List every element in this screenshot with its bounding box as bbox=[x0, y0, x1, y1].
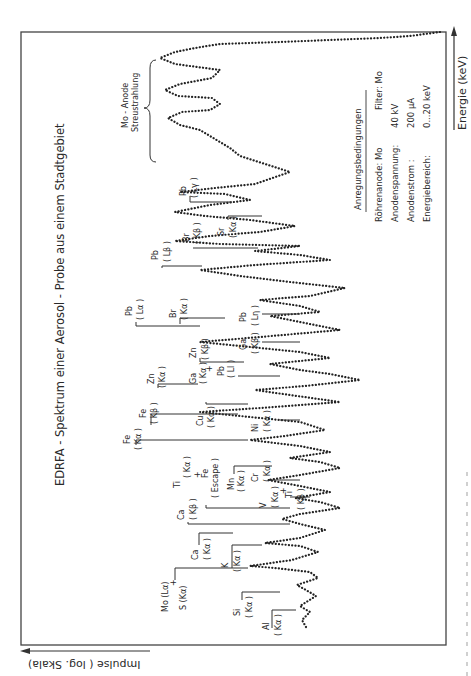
cond-filter-value: Filter: Mo bbox=[374, 71, 384, 110]
cond-current-label: Anodenstrom : bbox=[406, 159, 416, 222]
svg-text:( Kα ): ( Kα ) bbox=[263, 410, 272, 432]
peak-label-al: Al ( Kα ) bbox=[262, 610, 296, 636]
svg-text:( Kα ): ( Kα ) bbox=[233, 550, 242, 572]
svg-text:K: K bbox=[221, 562, 230, 568]
svg-text:Pb: Pb bbox=[151, 250, 160, 260]
svg-text:Pb: Pb bbox=[239, 312, 248, 322]
svg-text:( Kα ): ( Kα ) bbox=[158, 366, 167, 388]
svg-text:+: + bbox=[169, 579, 178, 586]
energy-axis: Energie (keV) bbox=[451, 26, 469, 130]
svg-text:Ca: Ca bbox=[177, 509, 186, 520]
svg-text:Ca: Ca bbox=[191, 549, 200, 560]
svg-text:( Kα ): ( Kα ) bbox=[180, 298, 189, 320]
peak-label-br-ka: Br ( Kα ) bbox=[169, 298, 225, 324]
svg-text:Sr: Sr bbox=[217, 227, 226, 236]
svg-text:( Kβ ): ( Kβ ) bbox=[251, 332, 260, 354]
svg-text:( Kα ): ( Kα ) bbox=[237, 470, 246, 492]
svg-text:( Kα ): ( Kα ) bbox=[229, 216, 238, 238]
svg-text:V: V bbox=[259, 502, 268, 508]
svg-text:( Kα ): ( Kα ) bbox=[274, 614, 283, 636]
svg-text:( Kβ ): ( Kβ ) bbox=[201, 338, 210, 360]
cond-anode-label: Röhrenanode: Mo bbox=[374, 147, 384, 222]
svg-text:Ni: Ni bbox=[251, 424, 260, 432]
svg-text:Mn: Mn bbox=[227, 478, 236, 490]
svg-text:( Kα ): ( Kα ) bbox=[207, 406, 216, 428]
peak-label-si: Si ( Kα ) bbox=[233, 592, 280, 618]
intensity-axis: Impulse ( log. Skala) bbox=[20, 648, 150, 671]
svg-text:( Kβ ): ( Kβ ) bbox=[297, 488, 306, 510]
svg-text:Streustrahlung: Streustrahlung bbox=[131, 73, 140, 132]
svg-text:Pb: Pb bbox=[179, 186, 188, 196]
cond-range-value: 0...20 keV bbox=[422, 85, 432, 128]
svg-text:Br: Br bbox=[182, 233, 191, 242]
svg-text:( Ll ): ( Ll ) bbox=[227, 360, 236, 378]
svg-text:( Kβ ): ( Kβ ) bbox=[193, 222, 202, 244]
spectrum-figure: Impulse ( log. Skala) Energie (keV) EDRF… bbox=[0, 0, 471, 676]
arrow-left-icon bbox=[20, 648, 30, 654]
xaxis-label: Energie (keV) bbox=[456, 56, 469, 130]
svg-text:( Lβ ): ( Lβ ) bbox=[163, 241, 172, 262]
svg-text:Zn: Zn bbox=[189, 347, 198, 358]
svg-text:Br: Br bbox=[169, 309, 178, 318]
chart-title: EDRFA - Spektrum einer Aerosol - Probe a… bbox=[53, 123, 67, 486]
svg-text:Fe: Fe bbox=[139, 409, 148, 418]
svg-text:Fe: Fe bbox=[201, 469, 210, 478]
peak-label-k: K ( Kα ) bbox=[221, 545, 262, 572]
svg-text:Al: Al bbox=[262, 622, 271, 630]
conditions-block: Anregungsbedingungen Röhrenanode: Mo Fil… bbox=[353, 71, 432, 222]
svg-text:+: + bbox=[205, 365, 214, 372]
svg-text:Zn: Zn bbox=[147, 373, 156, 384]
svg-text:( Lα ): ( Lα ) bbox=[136, 299, 145, 320]
peak-label-v-ti: V ( Kα ) + Ti ( Kβ ) bbox=[259, 486, 310, 510]
svg-text:( Kα ): ( Kα ) bbox=[263, 460, 272, 482]
cond-current-value: 200 μA bbox=[406, 98, 416, 128]
scatter-annotation: Mo - Anode Streustrahlung bbox=[121, 60, 156, 162]
svg-text:( Escape ): ( Escape ) bbox=[211, 458, 220, 498]
peak-label-mo-s: Mo (Lα) + S (Kα) bbox=[161, 568, 248, 612]
svg-text:Cu: Cu bbox=[196, 415, 205, 426]
cond-voltage-label: Anodenspannung: bbox=[390, 145, 400, 222]
svg-text:Ti: Ti bbox=[173, 481, 182, 489]
svg-text:( Kα ): ( Kα ) bbox=[203, 538, 212, 560]
cond-range-label: Energiebereich: bbox=[422, 155, 432, 222]
svg-text:Pb: Pb bbox=[125, 306, 134, 316]
svg-text:( Kα ): ( Kα ) bbox=[245, 596, 254, 618]
peak-label-pb-ln: Pb ( Lη ) bbox=[239, 305, 300, 326]
cond-voltage-value: 40 kV bbox=[390, 104, 400, 128]
svg-text:Mo - Anode: Mo - Anode bbox=[121, 83, 130, 128]
svg-text:Ti: Ti bbox=[285, 491, 294, 499]
svg-text:( Kβ ): ( Kβ ) bbox=[150, 402, 159, 424]
peak-label-cr: Cr ( Kα ) bbox=[251, 460, 300, 482]
svg-text:Pb: Pb bbox=[217, 366, 226, 376]
svg-text:S (Kα): S (Kα) bbox=[179, 586, 188, 610]
peak-label-ga-pb: Ga ( Kα ) + Pb ( Ll ) bbox=[189, 360, 280, 384]
svg-text:Fe: Fe bbox=[123, 435, 132, 444]
svg-text:Si: Si bbox=[233, 609, 242, 616]
peak-label-fe-ka: Fe ( Kα ) bbox=[123, 428, 248, 450]
svg-text:Cr: Cr bbox=[251, 472, 260, 482]
peak-label-zn-kb: Zn ( Kβ ) bbox=[189, 338, 244, 362]
svg-text:Ga: Ga bbox=[239, 339, 248, 350]
peak-label-ca-ka: Ca ( Kα ) bbox=[191, 533, 233, 560]
svg-text:( Lγ ): ( Lγ ) bbox=[190, 177, 199, 198]
peak-label-ga-kb: Ga ( Kβ ) bbox=[239, 332, 300, 354]
peak-label-pb-lb: Pb ( Lβ ) bbox=[151, 241, 202, 268]
svg-text:( Kα ): ( Kα ) bbox=[183, 456, 192, 478]
svg-text:( Lη ): ( Lη ) bbox=[251, 305, 260, 326]
peak-label-fe-kb: Fe ( Kβ ) bbox=[139, 402, 238, 425]
yaxis-label: Impulse ( log. Skala) bbox=[28, 658, 141, 671]
arrow-up-icon bbox=[451, 26, 457, 36]
svg-text:( Kβ ): ( Kβ ) bbox=[189, 498, 198, 520]
svg-text:( Kα ): ( Kα ) bbox=[134, 428, 143, 450]
svg-text:Ga: Ga bbox=[189, 373, 198, 384]
conditions-heading: Anregungsbedingungen bbox=[353, 108, 363, 210]
